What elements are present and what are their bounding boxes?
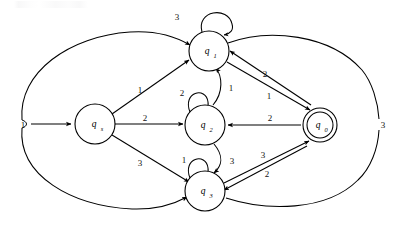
edge-label-q2-q3: 3 bbox=[230, 156, 235, 166]
edge-label-q2-self: 2 bbox=[180, 88, 185, 98]
state-q0-accepting[interactable]: q 0 bbox=[303, 108, 337, 142]
edge-label-qs-q1: 1 bbox=[138, 85, 143, 95]
edge-label-qs-q2: 2 bbox=[143, 113, 148, 123]
edge-q1-to-q0 bbox=[227, 62, 310, 110]
state-qs-label: q bbox=[92, 119, 97, 129]
edge-q0-to-q3 bbox=[224, 146, 307, 190]
edge-label-outer-right: 3 bbox=[381, 120, 386, 130]
edge-q2-to-q3 bbox=[214, 144, 221, 173]
state-q1-subscript: 1 bbox=[213, 52, 216, 59]
state-q0-label: q bbox=[316, 120, 321, 130]
state-q2[interactable]: q 2 bbox=[185, 105, 225, 145]
edge-label-q1-self: 3 bbox=[175, 12, 180, 22]
state-q3-label: q bbox=[201, 186, 206, 196]
edge-label-q3-q0: 3 bbox=[261, 150, 266, 160]
edge-label-q1-q0: 1 bbox=[267, 91, 272, 101]
edge-label-q0-q2: 2 bbox=[268, 113, 273, 123]
edge-label-qs-q3: 3 bbox=[138, 158, 143, 168]
state-q1-label: q bbox=[205, 46, 210, 56]
edge-qs-to-q1 bbox=[112, 60, 189, 114]
edge-label-q2-q1: 1 bbox=[229, 83, 234, 93]
state-q1[interactable]: q 1 bbox=[189, 31, 229, 71]
edge-label-q3-self: 1 bbox=[182, 155, 187, 165]
state-q2-label: q bbox=[201, 120, 206, 130]
state-qs[interactable]: q s bbox=[75, 104, 115, 144]
state-q3-subscript: 3 bbox=[208, 192, 212, 199]
edge-outer-arc-bottom-right bbox=[226, 130, 379, 206]
edge-q2-to-q1 bbox=[213, 68, 221, 105]
automaton-canvas: q s q 1 q 2 q 3 q 0 1 1 bbox=[0, 0, 403, 228]
edge-qs-to-q3 bbox=[112, 135, 189, 182]
edge-label-q0-q1: 2 bbox=[263, 69, 268, 79]
edge-label-q0-q3: 2 bbox=[265, 169, 270, 179]
state-q3[interactable]: q 3 bbox=[185, 171, 225, 211]
edge-label-start: 1 bbox=[21, 120, 26, 130]
state-diagram: q s q 1 q 2 q 3 q 0 1 1 bbox=[0, 0, 403, 228]
